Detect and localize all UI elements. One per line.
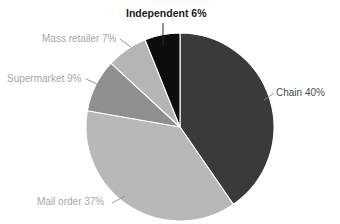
pie-label-supermarket: Supermarket 9% (7, 73, 81, 84)
pie-chart-figure: Independent 6% Chain 40% Mass retailer 7… (0, 0, 340, 224)
pie-label-chain: Chain 40% (276, 87, 325, 98)
pie-label-mass-retailer: Mass retailer 7% (42, 33, 116, 44)
pie-slices (86, 33, 274, 221)
leader-line-supermarket (86, 79, 97, 84)
pie-label-mail-order: Mail order 37% (37, 196, 104, 207)
pie-label-independent: Independent 6% (126, 8, 207, 20)
leader-line-mass-retailer (120, 39, 131, 47)
